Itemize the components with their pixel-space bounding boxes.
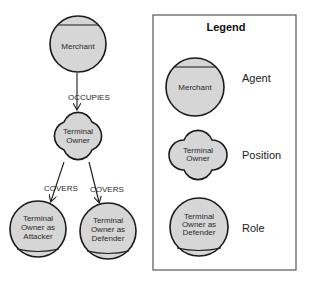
legend-title: Legend — [206, 21, 245, 33]
node-label: Attacker — [23, 232, 53, 241]
node-defender[interactable]: Terminal Owner as Defender — [80, 203, 136, 259]
legend-sample-label: Owner — [186, 154, 210, 163]
node-label: Terminal — [23, 214, 53, 223]
legend-label-agent: Agent — [242, 72, 271, 84]
legend-label-position: Position — [242, 149, 281, 161]
legend-sample-label: Defender — [183, 228, 216, 237]
node-label: Merchant — [61, 42, 95, 51]
node-label: Terminal — [93, 216, 123, 225]
edge-line — [89, 162, 99, 202]
edge-label-covers-attacker: COVERS — [44, 184, 78, 193]
node-label: Owner as — [91, 225, 125, 234]
legend-sample-label: Merchant — [178, 83, 212, 92]
edge-line — [51, 162, 64, 201]
node-attacker[interactable]: Terminal Owner as Attacker — [10, 201, 66, 257]
edge-label-covers-defender: COVERS — [90, 185, 124, 194]
node-merchant[interactable]: Merchant — [50, 16, 106, 72]
node-label: Owner — [66, 136, 90, 145]
edge-occupies: OCCUPIES — [68, 73, 110, 109]
edge-covers-attacker: COVERS — [44, 162, 78, 201]
diagram-canvas: OCCUPIES COVERS COVERS Merchant Terminal… — [0, 0, 309, 285]
node-label: Defender — [92, 234, 125, 243]
node-terminal-owner[interactable]: Terminal Owner — [54, 112, 101, 159]
edge-label-occupies: OCCUPIES — [68, 93, 110, 102]
legend-label-role: Role — [242, 222, 265, 234]
legend: Legend Merchant Agent Terminal Owner Pos… — [153, 15, 296, 270]
edge-covers-defender: COVERS — [89, 162, 124, 202]
node-label: Owner as — [21, 223, 55, 232]
node-label: Terminal — [63, 127, 93, 136]
